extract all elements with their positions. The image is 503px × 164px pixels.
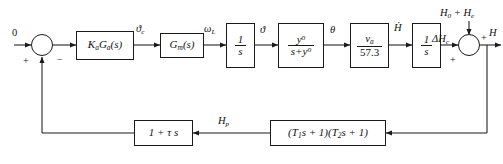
actuator-block-label: Gm(s): [170, 39, 195, 52]
sensor-dynamics-label: (T1s + 1)(T2s + 1): [288, 127, 368, 140]
integrator-1-fraction: 1s: [235, 34, 247, 57]
lag-fraction: yos+yo: [288, 34, 314, 58]
actuator-block[interactable]: Gm(s): [160, 33, 204, 58]
disturbance-input-label: H0 + He: [440, 8, 474, 20]
block-diagram-canvas: KaGa(s) Gm(s) 1s yos+yo va57.3 1s 1 + τ …: [0, 0, 503, 164]
output-label: H: [489, 28, 497, 39]
lag-output-label: θ: [330, 25, 335, 36]
controller-output-label: ϑc: [136, 24, 144, 36]
sum1-sign-minus: −: [57, 55, 63, 65]
integrator1-output-label: ϑ: [260, 25, 265, 36]
gain-output-label: H·: [394, 23, 402, 34]
lead-compensator-block[interactable]: 1 + τ s: [134, 120, 193, 146]
actuator-output-label: ωL: [204, 24, 215, 36]
sum1-sign-plus-left: +: [23, 56, 29, 66]
reference-input-label: 0: [12, 28, 17, 39]
feedback-mid-label: Hp: [218, 116, 229, 128]
controller-block[interactable]: KaGa(s): [76, 31, 134, 60]
lag-block[interactable]: yos+yo: [278, 23, 324, 68]
integrator-2-fraction: 1s: [421, 34, 433, 57]
gain-fraction: va57.3: [357, 33, 382, 58]
gain-block[interactable]: va57.3: [350, 23, 389, 68]
controller-block-label: KaGa(s): [88, 39, 122, 52]
lead-compensator-label: 1 + τ s: [149, 127, 178, 139]
integrator-1-block[interactable]: 1s: [226, 23, 255, 68]
sensor-dynamics-block[interactable]: (T1s + 1)(T2s + 1): [270, 120, 386, 146]
output-summing-junction[interactable]: [458, 34, 480, 56]
sum2-sign-plus-left: +: [450, 55, 456, 65]
sum2-sign-plus-right: +: [481, 33, 487, 43]
sum1-sign-plus-bottom: [38, 56, 41, 66]
integrator2-output-label: ΔHc: [432, 34, 449, 46]
error-summing-junction[interactable]: [31, 34, 53, 56]
